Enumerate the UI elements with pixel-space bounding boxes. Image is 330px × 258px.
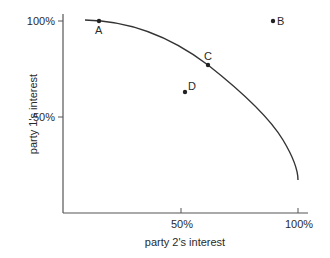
- y-axis-label: party 1's interest: [27, 59, 39, 169]
- point-label-d: D: [188, 80, 196, 92]
- x-axis-label: party 2's interest: [125, 236, 245, 248]
- point-label-c: C: [204, 50, 212, 62]
- point-d: [183, 90, 187, 94]
- x-tick-label-100: 100%: [285, 218, 313, 230]
- frontier-curve: [85, 20, 298, 180]
- y-tick-label-100: 100%: [15, 15, 55, 27]
- x-tick-label-50: 50%: [171, 218, 193, 230]
- point-a: [97, 19, 101, 23]
- point-c: [206, 63, 210, 67]
- point-label-a: A: [95, 24, 102, 36]
- point-label-b: B: [277, 15, 284, 27]
- chart-canvas: [0, 0, 330, 258]
- point-b: [271, 19, 275, 23]
